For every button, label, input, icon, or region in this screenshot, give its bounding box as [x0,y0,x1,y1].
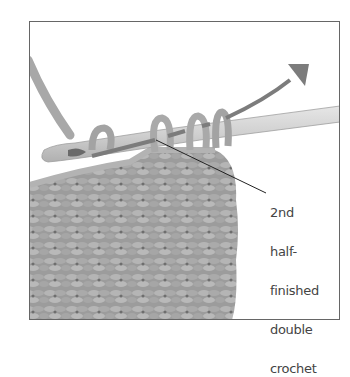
callout-line: double [270,320,340,340]
motion-arrow-head [288,64,309,86]
callout-label: 2nd half- finished double crochet [270,183,340,377]
callout-line: 2nd [270,203,340,223]
yarn-strand [28,60,70,135]
callout-line: crochet [270,359,340,377]
callout-line: half- [270,242,340,262]
callout-line: finished [270,281,340,301]
